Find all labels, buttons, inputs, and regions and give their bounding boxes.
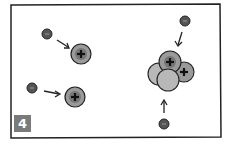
atom-diagram	[0, 0, 232, 148]
neutron-bottom	[157, 69, 179, 91]
arrow-icon	[57, 40, 69, 48]
arrow-icon	[175, 32, 182, 46]
electron-bottom-right	[159, 119, 169, 129]
electron-bottom-left	[27, 83, 37, 93]
arrow-icon	[44, 91, 60, 97]
proton-bottom-left	[65, 87, 85, 107]
electron-top-right	[180, 16, 190, 26]
panel-number-badge: 4	[14, 115, 31, 132]
nucleus-cluster	[148, 51, 194, 91]
proton-top-left	[71, 44, 91, 64]
arrow-icon	[161, 100, 167, 113]
electron-top-left	[42, 29, 52, 39]
